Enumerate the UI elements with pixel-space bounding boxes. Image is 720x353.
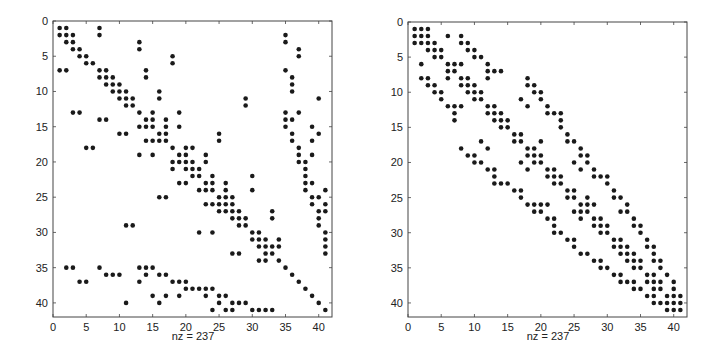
x-tick-label: 5: [438, 321, 444, 333]
y-tick-label: 35: [36, 262, 48, 274]
spy-plot-right-canvas: 05101520253035400510152025303540: [360, 0, 720, 353]
y-tick-label: 5: [397, 51, 403, 63]
x-tick-label: 25: [568, 321, 580, 333]
y-tick-label: 10: [391, 86, 403, 98]
y-tick-label: 25: [391, 192, 403, 204]
y-tick-label: 25: [36, 191, 48, 203]
y-tick-label: 10: [36, 85, 48, 97]
nonzero-markers-left: [57, 26, 327, 313]
x-tick-label: 25: [213, 321, 225, 333]
x-tick-label: 40: [668, 321, 680, 333]
y-tick-label: 0: [42, 15, 48, 27]
y-tick-label: 30: [391, 227, 403, 239]
y-tick-label: 5: [42, 50, 48, 62]
nonzero-markers-right: [412, 27, 682, 313]
spy-plot-right: 05101520253035400510152025303540 nz = 23…: [360, 0, 720, 353]
x-tick-label: 30: [246, 321, 258, 333]
spy-plot-left-canvas: 05101520253035400510152025303540: [0, 0, 360, 353]
x-tick-label: 15: [147, 321, 159, 333]
x-tick-label: 35: [634, 321, 646, 333]
x-tick-label: 0: [50, 321, 56, 333]
y-tick-label: 40: [391, 297, 403, 309]
x-tick-label: 35: [279, 321, 291, 333]
x-tick-label: 10: [468, 321, 480, 333]
y-tick-label: 15: [391, 121, 403, 133]
y-tick-label: 40: [36, 297, 48, 309]
y-tick-label: 20: [36, 156, 48, 168]
x-tick-label: 0: [405, 321, 411, 333]
y-tick-label: 15: [36, 121, 48, 133]
x-tick-label: 5: [83, 321, 89, 333]
x-tick-label: 40: [313, 321, 325, 333]
x-tick-label: 15: [502, 321, 514, 333]
y-tick-label: 20: [391, 156, 403, 168]
x-axis-label-left: nz = 237: [172, 330, 215, 342]
x-tick-label: 30: [601, 321, 613, 333]
y-tick-label: 0: [397, 16, 403, 28]
y-tick-label: 35: [391, 262, 403, 274]
y-tick-label: 30: [36, 226, 48, 238]
spy-plot-left: 05101520253035400510152025303540 nz = 23…: [0, 0, 360, 353]
x-axis-label-right: nz = 237: [527, 330, 570, 342]
x-tick-label: 10: [113, 321, 125, 333]
